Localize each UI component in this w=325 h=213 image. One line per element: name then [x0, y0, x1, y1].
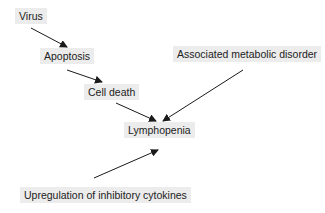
arrow-metabolic-to-lymphopenia [163, 70, 243, 121]
node-upregulation-inhibitory-cytokines: Upregulation of inhibitory cytokines [20, 187, 191, 203]
node-associated-metabolic-disorder: Associated metabolic disorder [173, 46, 321, 62]
node-lymphopenia: Lymphopenia [124, 122, 195, 138]
arrow-cell-death-to-lymphopenia [116, 103, 156, 121]
arrow-cytokines-to-lymphopenia [94, 150, 158, 178]
arrow-virus-to-apoptosis [31, 28, 67, 47]
node-apoptosis: Apoptosis [40, 48, 94, 64]
arrow-apoptosis-to-cell-death [67, 70, 102, 82]
node-virus: Virus [15, 8, 47, 24]
node-cell-death: Cell death [84, 84, 139, 100]
edges-layer [0, 0, 325, 213]
diagram-canvas: Virus Apoptosis Cell death Associated me… [0, 0, 325, 213]
